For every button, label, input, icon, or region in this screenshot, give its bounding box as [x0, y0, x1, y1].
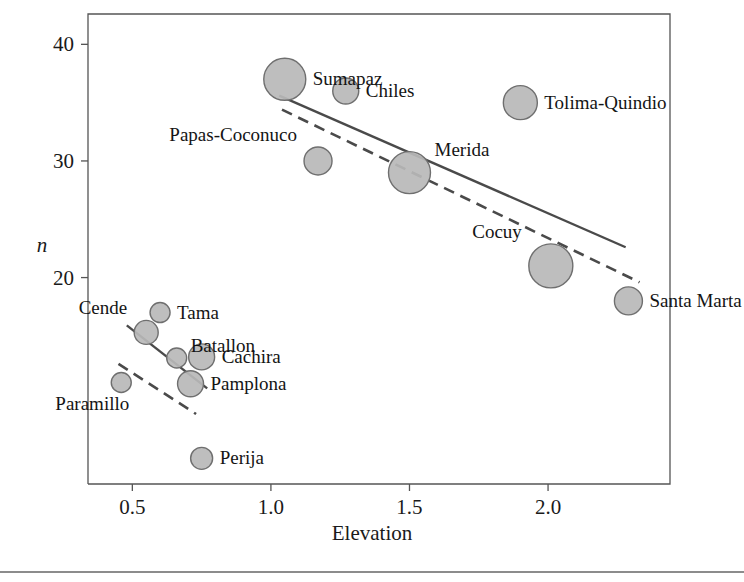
bubble-marker[interactable]: [178, 371, 204, 397]
point-label: Cende: [79, 297, 128, 318]
plot-canvas: 0.51.01.52.0203040 SumapazChilesTolima-Q…: [0, 0, 744, 582]
point-label: Papas-Coconuco: [169, 124, 297, 145]
bubble-marker[interactable]: [388, 152, 430, 194]
bubble-marker[interactable]: [264, 58, 306, 100]
y-axis-title: n: [37, 233, 48, 257]
bubble-marker[interactable]: [167, 348, 187, 368]
point-label: Perija: [220, 447, 265, 468]
bubble-marker[interactable]: [134, 320, 158, 344]
point-label: Tolima-Quindio: [544, 92, 666, 113]
bubble-scatter-figure: 0.51.01.52.0203040 SumapazChilesTolima-Q…: [0, 0, 744, 582]
bubble-marker[interactable]: [503, 86, 537, 120]
y-tick-label: 40: [53, 32, 74, 56]
point-label: Cocuy: [472, 221, 522, 242]
bubble-marker[interactable]: [304, 147, 332, 175]
point-label: Cachira: [222, 346, 282, 367]
bubble-marker[interactable]: [111, 373, 131, 393]
axis-ticks: 0.51.01.52.0203040: [53, 32, 561, 519]
point-label: Tama: [177, 302, 219, 323]
data-bubbles: [111, 58, 642, 469]
point-label: Paramillo: [55, 393, 129, 414]
x-axis-title: Elevation: [332, 521, 413, 545]
bubble-marker[interactable]: [150, 303, 170, 323]
x-tick-label: 1.0: [258, 495, 284, 519]
y-tick-label: 20: [53, 266, 74, 290]
bubble-marker[interactable]: [191, 447, 213, 469]
point-label: Chiles: [366, 80, 415, 101]
point-label: Merida: [434, 139, 489, 160]
data-point-labels: SumapazChilesTolima-QuindioPapas-Coconuc…: [55, 68, 742, 468]
point-label: Pamplona: [211, 373, 288, 394]
point-label: Santa Marta: [649, 290, 742, 311]
regression-line-upper-dashed: [282, 110, 640, 283]
regression-line-upper-solid: [279, 96, 625, 248]
bubble-marker[interactable]: [614, 287, 642, 315]
bubble-marker[interactable]: [529, 244, 573, 288]
y-tick-label: 30: [53, 149, 74, 173]
page-bottom-rule: [0, 571, 744, 573]
x-tick-label: 2.0: [535, 495, 561, 519]
x-tick-label: 0.5: [119, 495, 145, 519]
x-tick-label: 1.5: [396, 495, 422, 519]
